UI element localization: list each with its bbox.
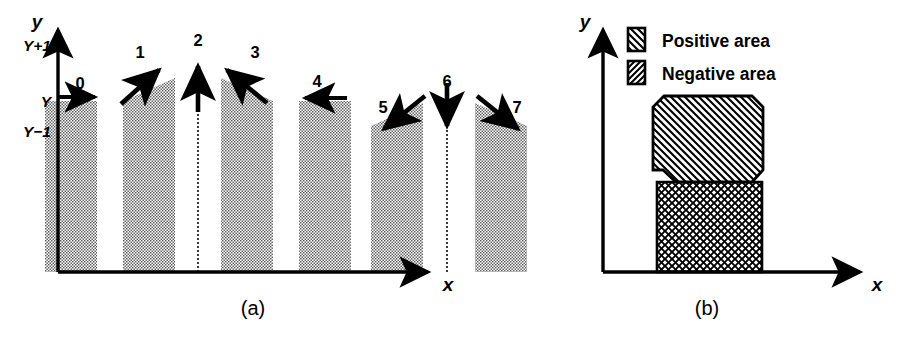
legend-item-negative: Negative area (628, 61, 776, 84)
legend-item-positive: Positive area (628, 28, 770, 51)
direction-label-3: 3 (250, 43, 259, 61)
panel-b-caption: (b) (695, 297, 719, 319)
bar-group (45, 78, 527, 272)
bar-0 (45, 101, 97, 272)
direction-label-2: 2 (193, 31, 202, 49)
region-positive-area (653, 96, 763, 182)
bar-7 (475, 103, 527, 272)
panel-a-y-axis-label: y (31, 11, 44, 32)
legend-swatch-negative (628, 61, 645, 84)
direction-label-4: 4 (312, 72, 322, 90)
bar-4 (299, 101, 351, 272)
bar-3 (221, 78, 273, 272)
panel-a-ytick-y: Y (41, 93, 53, 110)
direction-label-7: 7 (512, 98, 521, 116)
legend-label-positive: Positive area (662, 31, 770, 51)
bar-5 (371, 103, 423, 272)
figure-root: y x Y+1 Y Y−1 0 1 (0, 0, 907, 339)
panel-b-x-axis-label: x (871, 274, 884, 295)
panel-a-ytick-y-plus-1: Y+1 (23, 37, 51, 54)
direction-label-6: 6 (442, 72, 451, 90)
direction-label-1: 1 (135, 43, 144, 61)
panel-a-caption: (a) (241, 297, 265, 319)
panel-b-y-axis-label: y (579, 11, 592, 32)
region-negative-area (657, 182, 762, 272)
direction-label-0: 0 (75, 74, 84, 92)
panel-a: y x Y+1 Y Y−1 0 1 (23, 11, 527, 319)
panel-a-ytick-y-minus-1: Y−1 (23, 123, 51, 140)
legend-swatch-positive (628, 28, 645, 51)
panel-a-x-axis-label: x (442, 274, 455, 295)
legend-label-negative: Negative area (662, 64, 776, 84)
legend: Positive area Negative area (628, 28, 776, 84)
bar-1 (123, 78, 175, 272)
direction-label-5: 5 (378, 98, 387, 116)
panel-b: y x Positive area Negative area (b) (579, 11, 884, 319)
